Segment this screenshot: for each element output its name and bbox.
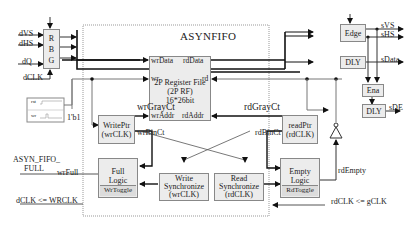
edge-label: Edge — [345, 29, 361, 38]
rbg-line-r: R — [49, 33, 54, 44]
rdtoggle-label: RdToggle — [282, 185, 318, 196]
write-sync-line3: (wrCLK) — [169, 191, 199, 199]
register-file-line2: (2P RF) — [167, 87, 192, 96]
output-shs-label: sHS — [381, 30, 394, 39]
dclk-assign-label: dCLK <= WRCLK — [16, 196, 78, 205]
full-logic-block: Full Logic WrToggle — [98, 158, 138, 198]
readptr-block: readPtr (rdCLK) — [282, 115, 318, 144]
dly-label-1: DLY — [345, 58, 361, 67]
rbg-line-g: G — [49, 55, 55, 66]
edge-block: Edge — [340, 24, 366, 42]
dly-label-2: DLY — [366, 107, 382, 116]
rbg-line-b: B — [49, 44, 54, 55]
wrgrayct-label: wrGrayCt — [137, 103, 175, 112]
port-rddata: rdData — [183, 57, 203, 65]
read-sync-line3: (rdCLK) — [225, 191, 253, 199]
waveform-wr-label: wr — [31, 113, 36, 119]
rdbinct-label: rdBinCt — [255, 128, 281, 137]
dly-block-2: DLY — [362, 104, 386, 118]
waveform-rst-label: rst — [31, 99, 36, 105]
rdempty-label: rdEmpty — [338, 166, 366, 175]
port-rdaddr: rdAddr — [182, 112, 204, 120]
wrtoggle-label: WrToggle — [100, 185, 136, 196]
dly-block-1: DLY — [340, 56, 366, 69]
asyn-fifo-full-line2: FULL — [24, 164, 44, 173]
wrbinct-label: wrBinCt — [137, 128, 165, 137]
full-logic-line2: Logic — [109, 176, 128, 185]
writeptr-line1: WritePtr — [103, 121, 130, 130]
port-wrdata: wrData — [151, 57, 173, 65]
input-dhs-label: dHS — [19, 39, 33, 48]
rbg-block: R B G — [43, 29, 60, 69]
input-dq-label: dQ — [22, 57, 32, 66]
write-sync-block: Write Synchronize (wrCLK) — [159, 173, 209, 201]
writeptr-line2: (wrCLK) — [102, 130, 132, 139]
readptr-line1: readPtr — [288, 121, 311, 130]
read-sync-block: Read Synchronize (rdCLK) — [214, 173, 264, 201]
input-dclk-label: dCLK — [23, 73, 43, 82]
output-sde-label: sDE — [389, 103, 403, 112]
const-1b1-label: 1'b1 — [67, 113, 80, 122]
rdgrayct-label: rdGrayCt — [244, 103, 280, 112]
output-svs-label: sVS — [381, 21, 394, 30]
port-wr: wr — [151, 75, 159, 83]
empty-logic-line1: Empty — [289, 167, 310, 176]
register-file-line1: 2P Register File — [154, 78, 205, 87]
readptr-line2: (rdCLK) — [286, 130, 314, 139]
port-rd: rd — [202, 75, 208, 83]
port-wraddr: wrAddr — [151, 112, 174, 120]
wrfull-label: wrFull — [57, 168, 78, 177]
full-logic-line1: Full — [112, 167, 125, 176]
output-sdata-label: sData — [381, 55, 399, 64]
asynfifo-title: ASYNFIFO — [180, 30, 236, 42]
input-dvs-label: dVS — [19, 29, 33, 38]
empty-logic-line2: Logic — [291, 176, 310, 185]
rdclk-assign-label: rdCLK <= gCLK — [331, 197, 387, 206]
empty-logic-block: Empty Logic RdToggle — [280, 158, 320, 198]
asyn-fifo-full-line1: ASYN_FIFO_ — [13, 155, 60, 164]
ena-block: Ena — [362, 84, 384, 97]
writeptr-block: WritePtr (wrCLK) — [98, 115, 135, 144]
ena-label: Ena — [367, 86, 379, 95]
